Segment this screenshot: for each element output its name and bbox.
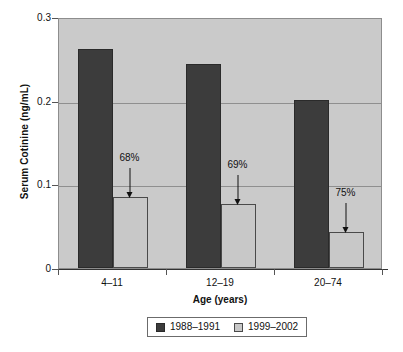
x-tick-label: 4–11 [57, 278, 167, 288]
x-tick-mark [382, 269, 383, 275]
y-tick-mark [52, 185, 58, 186]
annotation-arrow-head [342, 227, 348, 233]
y-tick-label: 0.2 [11, 97, 51, 107]
legend-label: 1988–1991 [170, 322, 220, 332]
bar [221, 204, 256, 268]
x-tick-label: 20–74 [273, 278, 383, 288]
annotation-label: 68% [100, 153, 160, 163]
bar-chart: Serum Cotinine (ng/mL) 0.30.20.10 4–1112… [0, 0, 403, 352]
x-tick-mark [166, 269, 167, 275]
x-tick-mark [274, 269, 275, 275]
annotation-arrow-stem [129, 168, 130, 192]
x-axis-title: Age (years) [58, 294, 382, 305]
y-tick-label: 0.1 [11, 180, 51, 190]
y-tick-mark [52, 102, 58, 103]
reduction-annotation: 75% [316, 188, 376, 233]
y-axis-title: Serum Cotinine (ng/mL) [19, 32, 30, 252]
x-tick-label: 12–19 [165, 278, 275, 288]
annotation-label: 75% [316, 188, 376, 198]
reduction-annotation: 68% [100, 153, 160, 198]
dark-square-swatch [156, 323, 165, 332]
x-axis-line [52, 269, 388, 270]
y-tick-mark [52, 18, 58, 19]
legend-item: 1988–1991 [156, 322, 220, 332]
annotation-arrow-head [126, 192, 132, 198]
legend-item: 1999–2002 [234, 322, 298, 332]
light-square-swatch [234, 323, 243, 332]
annotation-arrow-stem [237, 175, 238, 199]
y-tick-label: 0 [11, 264, 51, 274]
bar [294, 100, 329, 268]
x-tick-mark [58, 269, 59, 275]
reduction-annotation: 69% [208, 160, 268, 205]
annotation-arrow-stem [345, 203, 346, 227]
bar [113, 197, 148, 268]
annotation-arrow-head [234, 199, 240, 205]
bar [329, 232, 364, 268]
legend-label: 1999–2002 [248, 322, 298, 332]
y-tick-label: 0.3 [11, 13, 51, 23]
chart-legend: 1988–19911999–2002 [147, 317, 307, 337]
annotation-label: 69% [208, 160, 268, 170]
